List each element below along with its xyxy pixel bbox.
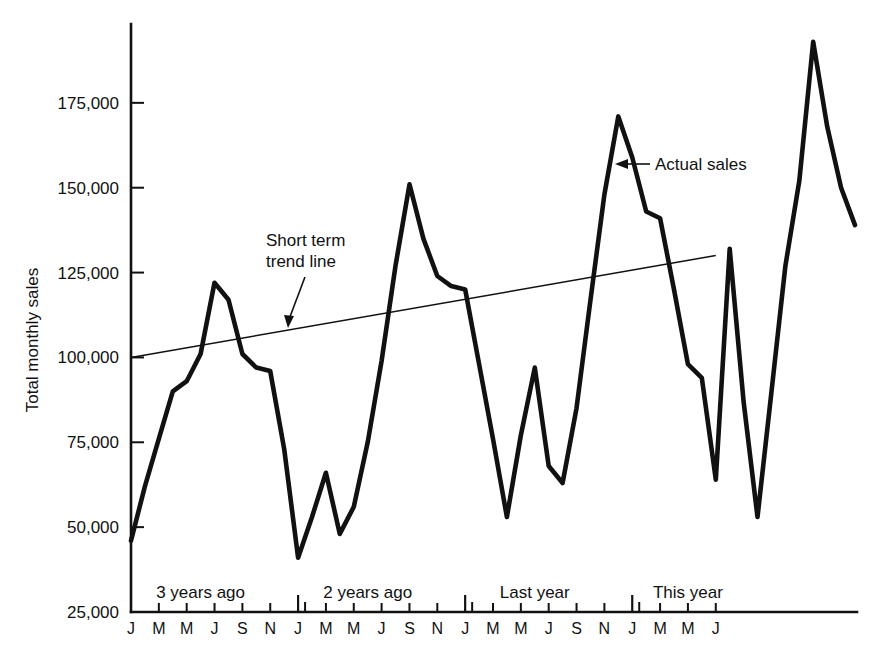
x-tick-label: M [180, 620, 193, 637]
sales-trend-chart: Total monthly sales 25,00050,00075,00010… [0, 0, 877, 670]
period-label: Last year [500, 583, 570, 602]
period-label: 2 years ago [323, 583, 412, 602]
x-tick-label: M [152, 620, 165, 637]
x-tick-label: M [486, 620, 499, 637]
chart-svg: Total monthly sales 25,00050,00075,00010… [0, 0, 877, 670]
x-tick-label: J [712, 620, 720, 637]
annotation-trend-arrow-head [284, 315, 294, 328]
x-tick-label: J [378, 620, 386, 637]
x-tick-label: J [294, 620, 302, 637]
annotation-actual-arrow-head [615, 159, 628, 169]
y-tick-label: 25,000 [67, 603, 119, 622]
x-tick-label: J [211, 620, 219, 637]
x-tick-label: M [347, 620, 360, 637]
x-tick-label: J [127, 620, 135, 637]
x-tick-label: S [404, 620, 415, 637]
x-tick-label: M [319, 620, 332, 637]
x-tick-label: M [653, 620, 666, 637]
x-tick-label: J [628, 620, 636, 637]
annotation-actual-label: Actual sales [655, 155, 747, 174]
y-tick-label: 175,000 [58, 94, 119, 113]
x-tick-label: N [264, 620, 276, 637]
y-tick-label: 125,000 [58, 264, 119, 283]
short-term-trend-line [131, 256, 716, 358]
annotation-trend-line1: Short term [266, 231, 345, 250]
y-tick-label: 150,000 [58, 179, 119, 198]
x-tick-label: N [599, 620, 611, 637]
x-tick-label: M [514, 620, 527, 637]
annotation-trend-arrow-shaft [288, 277, 305, 322]
x-tick-label: M [681, 620, 694, 637]
period-labels: 3 years ago2 years agoLast yearThis year [156, 583, 723, 602]
x-tick-label: N [432, 620, 444, 637]
annotation-short-term-trend: Short term trend line [266, 231, 345, 328]
y-axis-title-text: Total monthly sales [23, 268, 42, 413]
y-tick-label: 75,000 [67, 433, 119, 452]
period-label: This year [653, 583, 723, 602]
y-tick-label: 50,000 [67, 518, 119, 537]
y-axis-title: Total monthly sales [23, 268, 42, 413]
y-tick-label: 100,000 [58, 348, 119, 367]
x-tick-label: S [237, 620, 248, 637]
x-tick-label: J [545, 620, 553, 637]
x-tick-label: S [571, 620, 582, 637]
x-tick-label: J [461, 620, 469, 637]
period-label: 3 years ago [156, 583, 245, 602]
actual-sales-line [131, 42, 855, 558]
annotation-trend-line2: trend line [266, 252, 336, 271]
